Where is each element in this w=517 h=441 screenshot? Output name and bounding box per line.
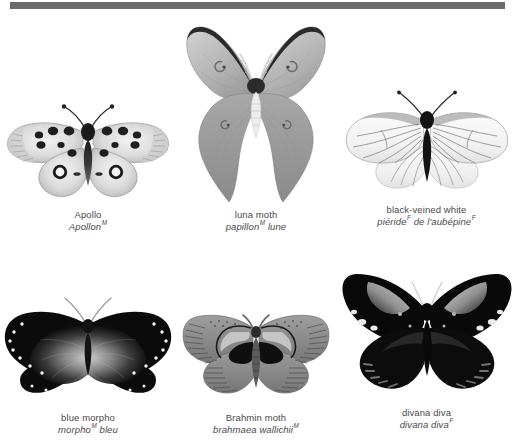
black-veined-white-caption: black-veined white piérideF de l'aubépin… [336,204,517,227]
blue-morpho-name-en: blue morpho [0,412,176,424]
plate-brahmin-moth: Brahmin moth brahmaea wallichiiM [176,262,336,440]
plate-row-bottom: blue morpho morphoM bleu [0,262,517,440]
brahmin-moth-illustration [176,302,336,402]
apollo-caption: Apollo ApollonM [0,209,176,232]
plate-row-top: Apollo ApollonM [0,12,517,240]
luna-moth-caption: luna moth papillonM lune [176,209,336,232]
divana-diva-illustration [336,272,517,397]
blue-morpho-name-fr: morphoM bleu [0,424,176,436]
page-header-rule [10,2,505,9]
black-veined-white-illustration [336,86,517,198]
blue-morpho-illustration [0,292,176,400]
plate-divana-diva: divana diva divana divaF [336,262,517,440]
dictionary-page: Apollo ApollonM [0,0,517,441]
apollo-name-en: Apollo [0,209,176,221]
luna-moth-illustration [176,14,336,210]
black-veined-white-name-en: black-veined white [336,204,517,216]
blue-morpho-caption: blue morpho morphoM bleu [0,412,176,435]
divana-diva-caption: divana diva divana divaF [336,407,517,430]
brahmin-moth-name-fr: brahmaea wallichiiM [176,424,336,436]
brahmin-moth-name-en: Brahmin moth [176,412,336,424]
plate-black-veined-white: black-veined white piérideF de l'aubépin… [336,12,517,240]
apollo-name-fr: ApollonM [0,221,176,233]
plate-grid: Apollo ApollonM [0,12,517,440]
apollo-illustration [0,98,176,203]
plate-luna-moth: luna moth papillonM lune [176,12,336,240]
divana-diva-name-fr: divana divaF [336,419,517,431]
luna-moth-name-fr: papillonM lune [176,221,336,233]
plate-apollo: Apollo ApollonM [0,12,176,240]
plate-blue-morpho: blue morpho morphoM bleu [0,262,176,440]
black-veined-white-name-fr: piérideF de l'aubépineF [336,216,517,228]
divana-diva-name-en: divana diva [336,407,517,419]
brahmin-moth-caption: Brahmin moth brahmaea wallichiiM [176,412,336,435]
luna-moth-name-en: luna moth [176,209,336,221]
